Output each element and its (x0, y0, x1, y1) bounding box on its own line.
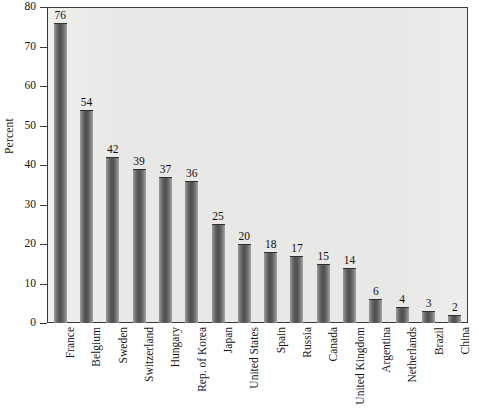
x-axis-label: Japan (222, 327, 235, 353)
y-axis-tick: 10 (0, 284, 47, 285)
y-axis-tick-mark (40, 205, 47, 206)
y-axis-tick-mark (40, 165, 47, 166)
y-axis-tick-label: 30 (25, 197, 37, 212)
y-axis-tick: 60 (0, 86, 47, 87)
x-axis-label: Brazil (433, 327, 446, 355)
y-axis-tick-mark (40, 7, 47, 8)
y-axis-tick-label: 10 (25, 276, 37, 291)
y-axis-tick: 40 (0, 165, 47, 166)
x-axis-label: China (459, 327, 472, 354)
y-axis-tick-label: 80 (25, 0, 37, 14)
y-axis-tick-label: 60 (25, 78, 37, 93)
y-axis-tick-label: 0 (30, 315, 36, 330)
y-axis-tick: 30 (0, 205, 47, 206)
y-axis-tick-mark (40, 86, 47, 87)
y-axis-tick-mark (40, 126, 47, 127)
y-axis-tick-mark (40, 323, 47, 324)
y-axis-tick-mark (40, 244, 47, 245)
x-axis-label: Argentina (380, 327, 393, 373)
x-axis-labels: FranceBelgiumSwedenSwitzerlandHungaryRep… (47, 324, 468, 420)
x-axis-label: Belgium (90, 327, 103, 367)
x-axis-label: Rep. of Korea (196, 327, 209, 392)
x-axis-label: Netherlands (406, 327, 419, 383)
y-axis-tick-label: 50 (25, 118, 37, 133)
x-axis-label: Russia (301, 327, 314, 358)
y-axis-tick: 20 (0, 244, 47, 245)
x-axis-label: Canada (327, 327, 340, 361)
x-axis-label: Hungary (169, 327, 182, 367)
y-axis-tick-label: 70 (25, 39, 37, 54)
bar-chart: Percent 01020304050607080 76544239373625… (0, 0, 479, 420)
y-axis-tick-label: 20 (25, 236, 37, 251)
y-axis-tick: 70 (0, 47, 47, 48)
x-axis-label: United States (248, 327, 261, 389)
y-axis-title: Percent (2, 64, 16, 154)
y-axis-tick-label: 40 (25, 157, 37, 172)
x-axis-label: Switzerland (143, 327, 156, 382)
plot-area (47, 7, 468, 323)
y-axis-tick: 80 (0, 7, 47, 8)
y-axis-tick-mark (40, 47, 47, 48)
y-axis-tick: 50 (0, 126, 47, 127)
x-axis-label: France (64, 327, 77, 358)
x-axis-label: United Kingdom (354, 327, 367, 405)
x-axis-label: Spain (275, 327, 288, 353)
x-axis-label: Sweden (117, 327, 130, 363)
y-axis-tick: 0 (0, 323, 47, 324)
y-axis-tick-mark (40, 284, 47, 285)
